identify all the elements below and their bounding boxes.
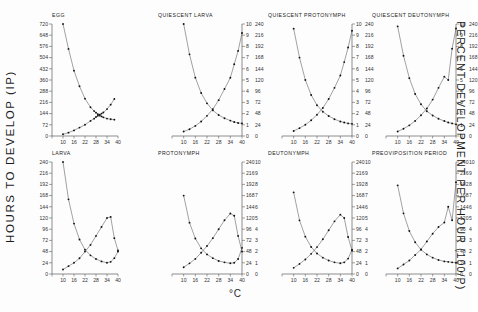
- data-point: [106, 118, 108, 120]
- data-point: [97, 113, 99, 115]
- data-point: [438, 87, 440, 89]
- svg-text:28: 28: [326, 139, 332, 145]
- panel-title: QUIESCENT PROTONYMPH: [268, 12, 346, 18]
- svg-text:8: 8: [460, 43, 463, 49]
- svg-text:6: 6: [356, 66, 359, 72]
- data-point: [73, 129, 75, 131]
- data-point: [117, 250, 119, 252]
- data-point: [237, 50, 239, 52]
- svg-text:16: 16: [302, 139, 308, 145]
- svg-text:168: 168: [469, 54, 478, 60]
- svg-text:16: 16: [192, 277, 198, 283]
- svg-text:9: 9: [246, 32, 249, 38]
- data-point: [408, 230, 410, 232]
- data-point: [84, 251, 86, 253]
- svg-text:0: 0: [45, 271, 48, 277]
- svg-text:7: 7: [246, 54, 249, 60]
- data-point: [293, 28, 295, 30]
- data-point: [93, 110, 95, 112]
- data-point: [183, 195, 185, 197]
- data-point: [194, 238, 196, 240]
- data-point: [310, 246, 312, 248]
- data-point: [73, 223, 75, 225]
- data-point: [328, 260, 330, 262]
- svg-text:144: 144: [469, 66, 478, 72]
- data-point: [304, 236, 306, 238]
- y-axis-label-left-text: HOURS TO DEVELOP (IP): [4, 70, 16, 243]
- panel-title: DEUTONYMPH: [268, 150, 309, 156]
- svg-text:10: 10: [246, 21, 252, 27]
- data-point: [113, 98, 115, 100]
- svg-text:0: 0: [356, 133, 359, 139]
- data-point: [189, 53, 191, 55]
- data-point: [79, 85, 81, 87]
- svg-text:40: 40: [453, 139, 459, 145]
- data-point: [438, 259, 440, 261]
- data-point: [316, 253, 318, 255]
- svg-text:192: 192: [246, 181, 255, 187]
- data-point: [351, 30, 353, 32]
- data-point: [414, 93, 416, 95]
- svg-text:96: 96: [460, 226, 466, 232]
- data-point: [106, 217, 108, 219]
- data-point: [334, 261, 336, 263]
- data-point: [93, 118, 95, 120]
- svg-text:10: 10: [469, 159, 475, 165]
- svg-text:16: 16: [71, 277, 77, 283]
- svg-text:22: 22: [314, 139, 320, 145]
- svg-text:96: 96: [246, 226, 252, 232]
- svg-text:5: 5: [469, 215, 472, 221]
- data-point: [339, 121, 341, 123]
- data-point: [95, 116, 97, 118]
- data-point: [328, 98, 330, 100]
- series-curve: [294, 192, 352, 263]
- data-point: [347, 122, 349, 124]
- data-point: [62, 161, 64, 163]
- series-curve: [294, 215, 352, 268]
- data-point: [241, 251, 243, 253]
- svg-text:2: 2: [356, 110, 359, 116]
- data-point: [451, 48, 453, 50]
- svg-text:2: 2: [460, 110, 463, 116]
- data-point: [113, 257, 115, 259]
- svg-text:192: 192: [469, 43, 478, 49]
- series-curve: [398, 28, 456, 131]
- svg-text:34: 34: [104, 277, 110, 283]
- data-point: [183, 131, 185, 133]
- data-point: [447, 261, 449, 263]
- data-point: [101, 113, 103, 115]
- data-point: [347, 47, 349, 49]
- svg-text:40: 40: [349, 277, 355, 283]
- data-point: [408, 124, 410, 126]
- data-point: [299, 263, 301, 265]
- data-point: [233, 262, 235, 264]
- svg-text:28: 28: [326, 277, 332, 283]
- data-point: [68, 265, 70, 267]
- series-curve: [184, 214, 242, 268]
- svg-text:28: 28: [93, 277, 99, 283]
- data-point: [200, 92, 202, 94]
- data-point: [432, 257, 434, 259]
- data-point: [347, 236, 349, 238]
- data-point: [334, 87, 336, 89]
- svg-text:1: 1: [356, 122, 359, 128]
- data-point: [420, 103, 422, 105]
- svg-text:28: 28: [430, 139, 436, 145]
- data-point: [102, 116, 104, 118]
- data-point: [397, 184, 399, 186]
- data-point: [241, 32, 243, 34]
- data-point: [101, 226, 103, 228]
- data-point: [73, 70, 75, 72]
- svg-text:48: 48: [246, 248, 252, 254]
- plot-area: 024487296120144168192216240101622283440: [22, 158, 140, 286]
- data-point: [322, 238, 324, 240]
- data-point: [339, 214, 341, 216]
- data-point: [224, 117, 226, 119]
- data-point: [347, 258, 349, 260]
- data-point: [224, 219, 226, 221]
- svg-text:22: 22: [82, 139, 88, 145]
- data-point: [328, 115, 330, 117]
- svg-text:22: 22: [204, 277, 210, 283]
- svg-text:3: 3: [356, 99, 359, 105]
- data-point: [183, 23, 185, 25]
